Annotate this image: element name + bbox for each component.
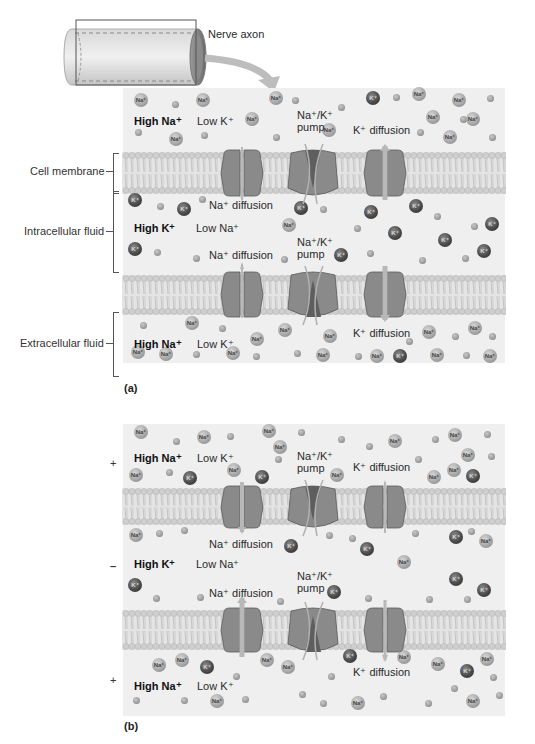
panel-b-top-high-na: High Na⁺ bbox=[134, 452, 182, 464]
panel-b-bot-high-na: High Na⁺ bbox=[134, 680, 182, 692]
panel-b-k-diffusion-top: K⁺ diffusion bbox=[353, 461, 410, 473]
panel-b-mid-low-na: Low Na⁺ bbox=[196, 558, 239, 570]
panel-b-k-diffusion-bot: K⁺ diffusion bbox=[353, 666, 410, 678]
panel-b-sign-top: + bbox=[110, 457, 116, 469]
sodium-potassium-pump-icon bbox=[288, 602, 338, 660]
panel-b-pump-mid: Na⁺/K⁺ pump bbox=[297, 570, 333, 594]
panel-b-top-low-k: Low K⁺ bbox=[197, 452, 234, 464]
diffusion-arrow-icon bbox=[383, 480, 387, 533]
panel-b-pump-top: Na⁺/K⁺ pump bbox=[297, 450, 333, 474]
panel-b-sign-bot: + bbox=[110, 674, 116, 686]
panel-b-channels bbox=[0, 0, 535, 744]
panel-b-na-diffusion-lower: Na⁺ diffusion bbox=[209, 587, 273, 599]
sodium-potassium-pump-icon bbox=[288, 480, 338, 536]
panel-b-na-diffusion-upper: Na⁺ diffusion bbox=[209, 538, 273, 550]
panel-b-bot-low-k: Low K⁺ bbox=[197, 680, 234, 692]
panel-b-mid-high-k: High K⁺ bbox=[134, 558, 175, 570]
panel-b-sign-mid: – bbox=[110, 560, 116, 572]
panel-b-caption: (b) bbox=[124, 720, 138, 732]
